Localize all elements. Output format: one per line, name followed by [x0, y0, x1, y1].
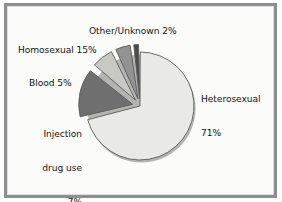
- slice-label-heterosexual-line-1: Heterosexual: [201, 94, 261, 105]
- slice-label-injection-line-2: drug use: [20, 163, 82, 174]
- slice-label-blood: Blood 5%: [29, 78, 72, 89]
- slice-label-injection-line-3: 7%: [20, 197, 82, 202]
- slice-label-homosexual: Homosexual 15%: [18, 45, 97, 56]
- slice-label-injection-drug-use: Injection drug use 7%: [20, 107, 82, 202]
- slice-label-injection-line-1: Injection: [20, 129, 82, 140]
- slice-label-heterosexual: Heterosexual 71%: [201, 72, 261, 162]
- slice-label-heterosexual-line-2: 71%: [201, 128, 261, 139]
- chart-plot-area: Other/Unknown 2% Homosexual 15% Blood 5%…: [0, 0, 282, 202]
- pie-chart-figure: Other/Unknown 2% Homosexual 15% Blood 5%…: [0, 0, 282, 202]
- slice-label-other-unknown: Other/Unknown 2%: [89, 26, 177, 37]
